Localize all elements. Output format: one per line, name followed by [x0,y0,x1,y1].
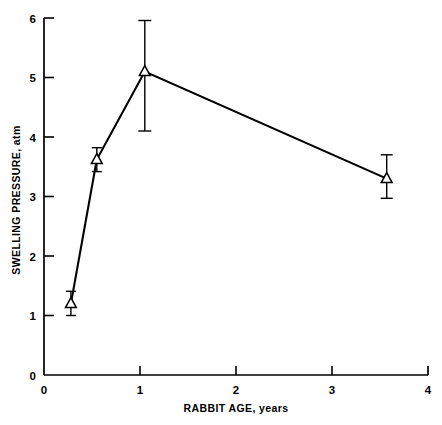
chart-background [0,0,442,425]
chart-figure: 6 5 4 3 2 1 0 0 1 2 3 4 RABBIT AGE, year… [0,0,442,425]
x-tick-label-4: 4 [425,384,432,396]
x-tick-label-2: 2 [233,384,239,396]
y-tick-label-3: 3 [30,191,36,203]
y-tick-label-0: 0 [30,370,36,382]
x-tick-label-3: 3 [329,384,335,396]
swelling-pressure-line-chart: 6 5 4 3 2 1 0 0 1 2 3 4 RABBIT AGE, year… [0,0,442,425]
y-tick-label-4: 4 [30,132,37,144]
x-tick-label-1: 1 [137,384,144,396]
y-axis-title: SWELLING PRESSURE, atm [10,125,22,274]
y-tick-label-5: 5 [30,72,37,84]
y-tick-label-6: 6 [30,13,36,25]
x-axis-title: RABBIT AGE, years [183,402,288,414]
y-tick-label-1: 1 [30,310,37,322]
y-tick-label-2: 2 [30,251,36,263]
x-tick-label-0: 0 [41,384,47,396]
